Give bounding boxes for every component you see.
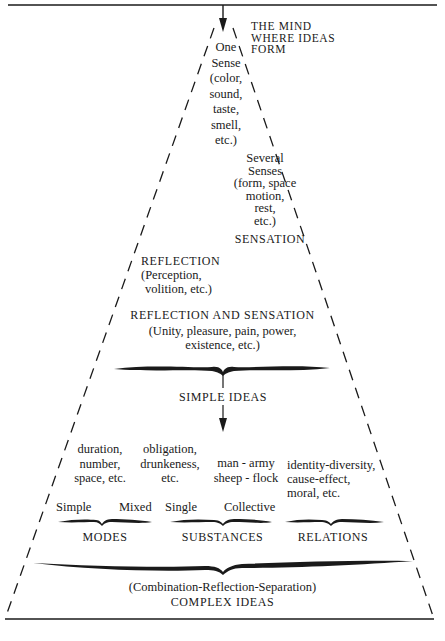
complex-ideas-process: (Combination-Reflection-Separation) xyxy=(90,580,355,594)
one-sense-example-2: sound, xyxy=(196,87,256,103)
mind-label-line-1: THE MIND xyxy=(251,21,335,33)
modes-brace xyxy=(58,519,152,526)
substances-examples: man - army sheep - flock xyxy=(196,456,296,485)
entry-arrow-head xyxy=(219,18,227,32)
reflection-and-sensation-example-1: (Unity, pleasure, pain, power, xyxy=(110,324,335,338)
one-sense-block: One Sense (color, sound, taste, smell, e… xyxy=(196,40,256,149)
reflection-example-2: volition, etc.) xyxy=(145,282,212,296)
sensation-label: SENSATION xyxy=(210,232,330,246)
several-senses-example-3: rest, xyxy=(220,202,310,215)
modes-mixed-label: Mixed xyxy=(119,500,152,514)
simple-ideas-arrow-head xyxy=(219,418,227,432)
complex-ideas-brace xyxy=(33,561,413,575)
reflection-and-sensation-example-2: existence, etc.) xyxy=(110,338,335,352)
several-senses-title-1: Several xyxy=(220,152,310,165)
mind-label: THE MIND WHERE IDEAS FORM xyxy=(251,21,335,56)
substances-brace xyxy=(170,519,272,526)
simple-ideas-brace xyxy=(114,366,330,376)
modes-title: MODES xyxy=(60,530,150,544)
relations-title: RELATIONS xyxy=(283,530,383,544)
one-sense-title-2: Sense xyxy=(196,56,256,72)
modes-mixed-example-1: obligation, xyxy=(125,442,215,457)
simple-ideas-label: SIMPLE IDEAS xyxy=(163,390,283,404)
one-sense-example-5: etc.) xyxy=(196,133,256,149)
relations-examples: identity-diversity, cause-effect, moral,… xyxy=(287,458,375,500)
substances-title: SUBSTANCES xyxy=(170,530,275,544)
several-senses-example-4: etc.) xyxy=(220,215,310,228)
relations-example-2: cause-effect, xyxy=(287,472,375,486)
relations-brace xyxy=(285,519,384,526)
relations-example-3: moral, etc. xyxy=(287,486,375,500)
one-sense-example-1: (color, xyxy=(196,71,256,87)
relations-example-1: identity-diversity, xyxy=(287,458,375,472)
substances-collective-label: Collective xyxy=(224,500,275,514)
complex-ideas-title: COMPLEX IDEAS xyxy=(90,595,355,609)
one-sense-example-3: taste, xyxy=(196,102,256,118)
several-senses-block: Several Senses (form, space motion, rest… xyxy=(220,152,310,227)
substances-single-label: Single xyxy=(165,500,197,514)
reflection-example-1: (Perception, xyxy=(141,268,202,282)
modes-simple-label: Simple xyxy=(56,500,91,514)
mind-label-line-3: FORM xyxy=(251,44,335,56)
one-sense-title-1: One xyxy=(196,40,256,56)
several-senses-example-1: (form, space xyxy=(220,177,310,190)
reflection-and-sensation-title: REFLECTION AND SENSATION xyxy=(110,308,335,322)
substances-example-1: man - army xyxy=(196,456,296,471)
reflection-title: REFLECTION xyxy=(141,254,220,268)
substances-example-2: sheep - flock xyxy=(196,471,296,486)
one-sense-example-4: smell, xyxy=(196,118,256,134)
